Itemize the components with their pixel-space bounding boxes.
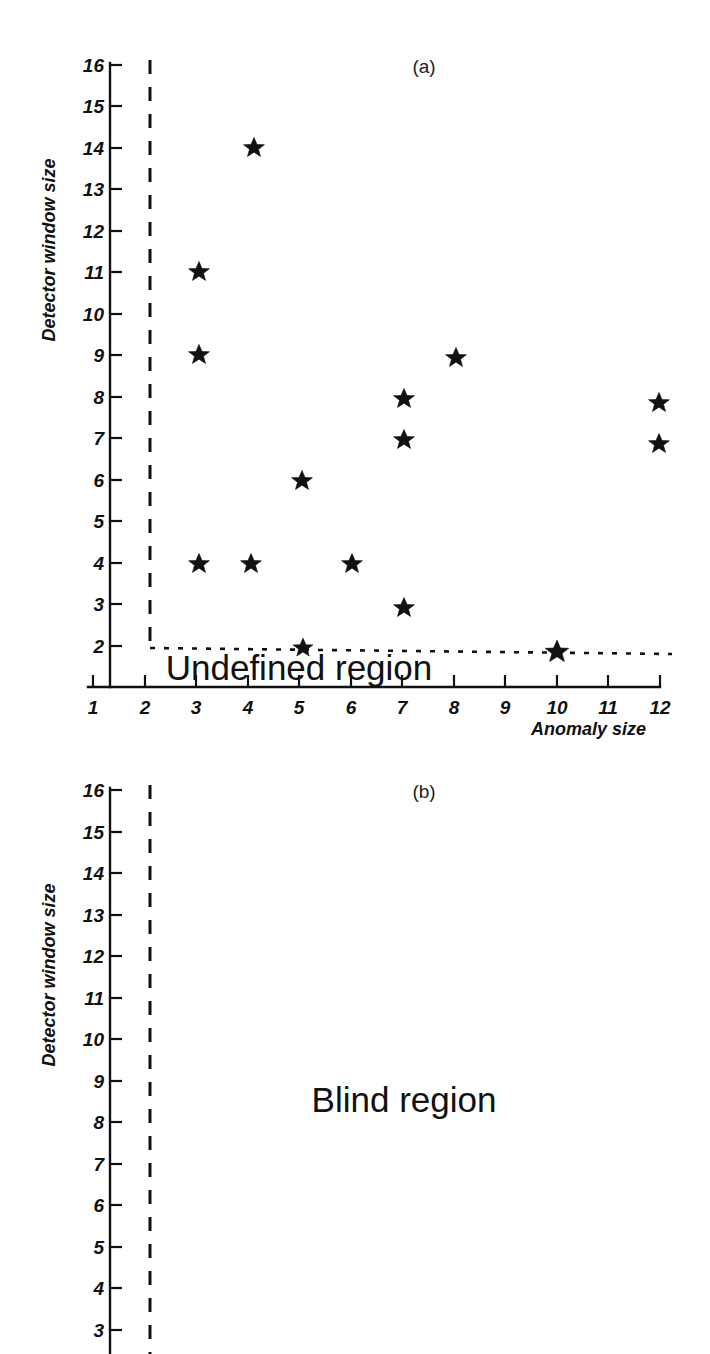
panel-a-y-axis-title: Detector window size [39,158,59,341]
y-tick-label: 11 [84,262,104,283]
x-tick-label: 7 [397,697,409,718]
data-point-star [292,471,313,490]
data-point-star [189,262,210,281]
y-tick-label: 10 [83,304,105,325]
x-tick-label: 4 [242,697,254,718]
y-tick-label: 13 [83,905,105,926]
data-point-star [394,389,415,408]
panel-b-region-label: Blind region [312,1080,497,1119]
figure-svg: 16 15 14 13 12 11 10 9 8 7 6 5 4 3 2 [0,0,710,1354]
panel-a-y-ticklabels: 16 15 14 13 12 11 10 9 8 7 6 5 4 3 2 [83,55,106,657]
y-tick-label: 11 [84,988,104,1009]
data-point-star [446,348,467,367]
figure-container: 16 15 14 13 12 11 10 9 8 7 6 5 4 3 2 [0,0,710,1354]
y-tick-label: 9 [93,345,104,366]
data-point-star [649,434,670,453]
y-tick-label: 14 [83,863,105,884]
y-tick-label: 2 [92,636,104,657]
y-tick-label: 6 [93,470,104,491]
y-tick-label: 12 [83,946,105,967]
panel-b-y-ticks [110,790,122,1330]
y-tick-label: 4 [92,553,104,574]
x-tick-label: 6 [346,697,357,718]
x-tick-label: 3 [191,697,202,718]
x-tick-label: 5 [294,697,305,718]
y-tick-label: 6 [93,1195,104,1216]
data-point-star [244,138,265,157]
data-point-star [189,554,210,573]
panel-b-y-axis-title: Detector window size [39,883,59,1066]
data-point-star [394,598,415,617]
panel-a-y-ticks [110,65,122,646]
y-tick-label: 15 [83,96,105,117]
y-tick-label: 16 [83,780,105,801]
y-tick-label: 7 [93,1154,105,1175]
y-tick-label: 16 [83,55,105,76]
y-tick-label: 13 [83,179,105,200]
y-tick-label: 7 [93,428,105,449]
data-point-star [342,554,363,573]
x-tick-label: 12 [649,697,671,718]
y-tick-label: 8 [93,1112,104,1133]
panel-a-data-points [189,138,670,662]
x-tick-label: 2 [139,697,151,718]
x-tick-label: 9 [500,697,511,718]
x-tick-label: 10 [546,697,568,718]
panel-b-label: (b) [412,781,435,802]
x-tick-label: 11 [598,697,618,718]
y-tick-label: 8 [93,387,104,408]
panel-a-x-ticklabels: 1 2 3 4 5 6 7 8 9 10 11 12 [88,697,671,718]
y-tick-label: 15 [83,822,105,843]
y-tick-label: 5 [93,1237,104,1258]
data-point-star [241,554,262,573]
panel-b-y-ticklabels: 16 15 14 13 12 11 10 9 8 7 6 5 4 3 [83,780,106,1341]
y-tick-label: 10 [83,1029,105,1050]
data-point-star [189,345,210,364]
y-tick-label: 5 [93,511,104,532]
x-tick-label: 1 [88,697,99,718]
y-tick-label: 14 [83,138,105,159]
panel-a-x-axis-title: Anomaly size [530,719,646,739]
panel-a: 16 15 14 13 12 11 10 9 8 7 6 5 4 3 2 [39,55,672,739]
data-point-star [394,430,415,449]
panel-a-label: (a) [412,56,435,77]
y-tick-label: 12 [83,221,105,242]
y-tick-label: 9 [93,1071,104,1092]
data-point-star [649,393,670,412]
y-tick-label: 3 [93,1320,104,1341]
panel-b: 16 15 14 13 12 11 10 9 8 7 6 5 4 3 Detec… [39,780,496,1354]
data-point-star [545,640,568,661]
y-tick-label: 4 [92,1278,104,1299]
y-tick-label: 3 [93,594,104,615]
x-tick-label: 8 [449,697,460,718]
